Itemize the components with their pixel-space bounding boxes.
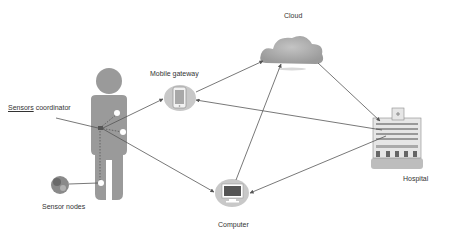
- sensors-coordinator-label-underlined: Sensors: [8, 104, 34, 111]
- cloud-icon: [260, 36, 323, 71]
- coordinator-chip-icon: [98, 126, 103, 130]
- edge-hospital-computer: [250, 136, 386, 193]
- mobile-gateway-label: Mobile gateway: [150, 70, 199, 77]
- computer-node: [215, 179, 249, 207]
- edges: [103, 61, 386, 193]
- edge-gateway-cloud: [196, 61, 263, 92]
- sensor-dot-chest: [114, 110, 120, 116]
- cloud-label: Cloud: [284, 12, 302, 19]
- sensors-coordinator-label: Sensors coordinator: [8, 104, 71, 111]
- sensor-dot-hand: [120, 129, 126, 135]
- edge-computer-cloud: [236, 64, 281, 180]
- mobile-gateway-node: [164, 85, 196, 111]
- sensor-node-icon: [51, 176, 69, 194]
- sensors-coordinator-label-rest: coordinator: [34, 104, 71, 111]
- sensor-dot-leg: [98, 180, 104, 186]
- sensor-nodes-label: Sensor nodes: [42, 203, 85, 210]
- edge-cloud-hospital: [318, 63, 380, 121]
- computer-label: Computer: [218, 221, 249, 228]
- hospital-icon: [371, 108, 423, 169]
- sensor-node-link: [69, 183, 98, 184]
- edge-hospital-gateway: [196, 100, 382, 130]
- hospital-label: Hospital: [403, 175, 428, 182]
